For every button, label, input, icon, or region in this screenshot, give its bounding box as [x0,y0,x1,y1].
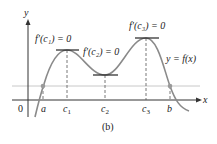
tick-c2: c2 [101,103,109,116]
figure-caption: (b) [102,121,114,133]
y-axis-label: y [23,7,29,18]
tick-c3: c3 [142,103,150,116]
tick-b: b [167,103,172,114]
point-b-dot [168,84,173,89]
x-axis-arrow-icon [196,98,202,103]
annotation-curve: y = f(x) [165,53,197,65]
rolle-theorem-diagram: y x 0 a c1 c2 c3 b f′(c₁) = 0 f′(c₂) = 0… [0,0,217,144]
annotation-c3: f′(c₃) = 0 [129,20,165,32]
y-axis-arrow-icon [26,19,31,25]
annotation-c1: f′(c₁) = 0 [35,33,71,45]
tick-a: a [41,103,46,114]
origin-label: 0 [18,103,23,114]
tick-c1: c1 [63,103,71,116]
annotation-c2: f′(c₂) = 0 [83,46,119,58]
point-a-dot [41,84,46,89]
x-axis-label: x [202,94,208,105]
